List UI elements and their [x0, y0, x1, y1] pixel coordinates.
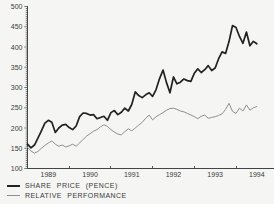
x-tick-label: 1994: [249, 171, 265, 178]
share-price-line: [28, 26, 257, 148]
x-tick-label: 1991: [124, 171, 140, 178]
y-tick-label: 300: [11, 84, 23, 91]
x-axis-labels: 198919901991199219931994: [41, 171, 265, 178]
legend-label-share-price: SHARE PRICE (PENCE): [25, 181, 118, 190]
y-axis-labels: 100150200250300350400450500: [11, 3, 23, 172]
relative-performance-line: [28, 103, 257, 153]
y-tick-label: 400: [11, 44, 23, 51]
y-tick-label: 150: [11, 145, 23, 152]
share-price-chart: 100150200250300350400450500 198919901991…: [0, 0, 274, 204]
legend-item-share-price: SHARE PRICE (PENCE): [7, 181, 267, 190]
y-tick-label: 250: [11, 104, 23, 111]
y-tick-label: 100: [11, 165, 23, 172]
x-tick-label: 1990: [82, 171, 98, 178]
relative-performance-line-swatch: [7, 195, 20, 196]
x-tick-label: 1989: [41, 171, 57, 178]
y-tick-label: 450: [11, 23, 23, 30]
x-tick-label: 1993: [207, 171, 223, 178]
share-price-line-swatch: [7, 185, 20, 187]
y-tick-label: 500: [11, 3, 23, 10]
legend-label-relative-performance: RELATIVE PERFORMANCE: [25, 191, 127, 200]
x-tick-label: 1992: [166, 171, 182, 178]
legend-item-relative-performance: RELATIVE PERFORMANCE: [7, 191, 267, 200]
y-tick-label: 350: [11, 64, 23, 71]
chart-canvas: 100150200250300350400450500 198919901991…: [0, 0, 274, 204]
chart-legend: SHARE PRICE (PENCE) RELATIVE PERFORMANCE: [7, 181, 267, 201]
y-tick-label: 200: [11, 125, 23, 132]
